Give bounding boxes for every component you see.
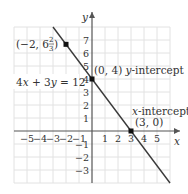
point-label-neg2: (−2, 6: [16, 38, 49, 50]
x-tick-label: −4: [33, 133, 47, 144]
point-label-close-paren: ): [54, 38, 58, 50]
x-tick-label: −3: [46, 133, 60, 144]
data-point-marker: [129, 129, 134, 134]
x-tick-label: 2: [115, 133, 121, 144]
y-tick-label: 2: [83, 100, 89, 111]
fraction-numerator: 2: [49, 36, 53, 44]
y-axis-label: y: [81, 11, 89, 23]
x-intercept-coords: (3, 0): [135, 116, 163, 128]
linear-equation-graph: −5−4−3−2−1123457654321−1−2−3 4x + 3y = 1…: [0, 0, 188, 194]
y-tick-label: −3: [75, 165, 89, 176]
y-tick-label: 6: [83, 48, 89, 59]
data-point-marker: [64, 42, 69, 47]
y-tick-label: 3: [83, 87, 89, 98]
y-intercept-label: (0, 4) y-intercept: [94, 64, 184, 76]
x-tick-label: 1: [102, 133, 108, 144]
y-axis-arrow-icon: [89, 12, 95, 18]
x-tick-label: −5: [20, 133, 34, 144]
y-tick-label: 1: [83, 113, 89, 124]
equation-label: 4x + 3y = 12: [16, 76, 86, 88]
data-point-marker: [90, 77, 95, 82]
x-tick-label: 4: [141, 133, 147, 144]
y-tick-label: −1: [75, 139, 89, 150]
x-axis-arrow-icon: [174, 128, 180, 134]
x-tick-label: 5: [154, 133, 160, 144]
fraction-denominator: 3: [49, 45, 53, 53]
x-axis-label: x: [174, 135, 180, 147]
y-tick-label: 7: [83, 35, 89, 46]
y-tick-label: −2: [75, 152, 89, 163]
x-tick-label: −2: [59, 133, 73, 144]
